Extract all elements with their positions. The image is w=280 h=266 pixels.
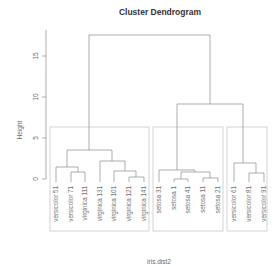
leaf-label: virginica 101 <box>110 186 118 222</box>
y-axis-label: Height <box>16 120 24 139</box>
y-tick-10: 10 <box>32 93 39 101</box>
leaf-label: setosa 31 <box>155 186 162 214</box>
chart-title: Cluster Dendrogram <box>119 7 202 17</box>
y-axis <box>42 30 46 179</box>
leaf-label: setosa 21 <box>214 186 221 214</box>
leaf-label: versicolor 51 <box>52 186 59 222</box>
leaf-label: setosa 1 <box>170 186 177 210</box>
leaf-label: virginica 131 <box>96 186 104 222</box>
leaf-labels: versicolor 51 versicolor 71 virginica 11… <box>52 186 267 222</box>
leaf-label: virginica 141 <box>140 186 148 222</box>
leaf-label: virginica 121 <box>125 186 133 222</box>
x-axis-label: iris.dist2 <box>147 258 171 265</box>
y-tick-5: 5 <box>32 136 39 140</box>
leaf-label: versicolor 81 <box>245 186 252 222</box>
dendrogram-chart: Cluster Dendrogram 0 5 10 15 Height <box>0 0 280 266</box>
leaf-label: versicolor 61 <box>230 186 237 222</box>
y-tick-labels: 0 5 10 15 <box>32 52 39 181</box>
leaf-label: setosa 41 <box>184 186 191 214</box>
leaf-label: setosa 11 <box>199 186 206 213</box>
leaf-label: versicolor 91 <box>260 186 267 222</box>
dendrogram-branches <box>56 35 264 182</box>
y-tick-0: 0 <box>32 177 39 181</box>
leaf-label: virginica 111 <box>81 186 89 221</box>
leaf-label: versicolor 71 <box>67 186 74 222</box>
y-tick-15: 15 <box>32 52 39 60</box>
